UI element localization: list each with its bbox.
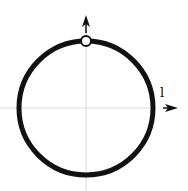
- right-arrow-icon: [163, 104, 178, 112]
- diagram-canvas: l: [0, 0, 188, 191]
- up-arrow-icon: [82, 15, 90, 33]
- open-point: [81, 36, 91, 46]
- axis-label-l: l: [160, 85, 164, 100]
